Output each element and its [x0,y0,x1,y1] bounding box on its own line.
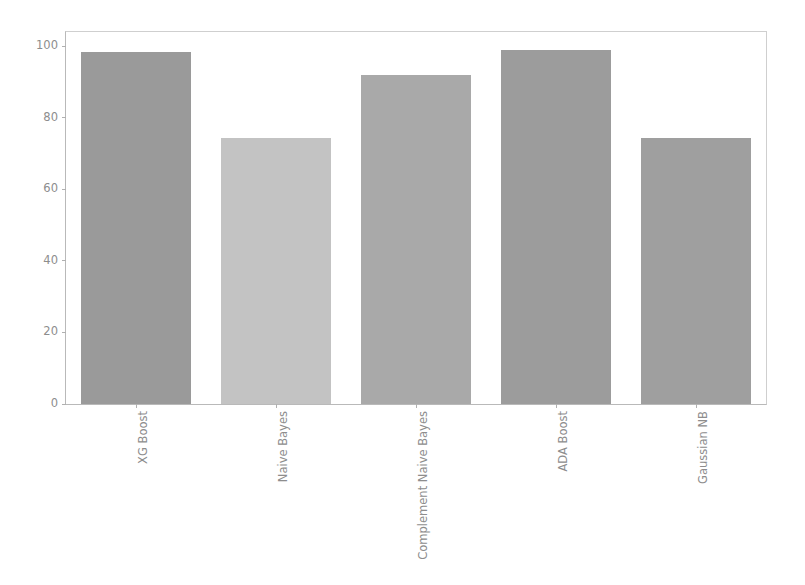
bar [361,75,470,404]
x-tick-mark [276,404,277,408]
bar-chart-figure: 020406080100 XG BoostNaive BayesCompleme… [0,0,805,585]
y-tick-label: 80 [43,110,58,125]
bar [81,52,190,404]
x-tick-label: XG Boost [136,411,150,464]
y-tick-label: 0 [51,396,58,411]
bar [221,138,330,404]
bar [501,50,610,404]
bar [641,138,750,404]
x-tick-mark [136,404,137,408]
bar-series [66,32,766,404]
x-tick-mark [696,404,697,408]
x-tick-label: Naive Bayes [276,411,290,482]
y-tick-label: 60 [43,181,58,196]
x-tick-label: Complement Naive Bayes [416,411,430,560]
x-tick-label: Gaussian NB [696,411,710,484]
y-tick-label: 100 [36,38,58,53]
y-tick-label: 40 [43,253,58,268]
y-tick-label: 20 [43,324,58,339]
x-tick-mark [416,404,417,408]
x-tick-label: ADA Boost [556,411,570,472]
x-tick-mark [556,404,557,408]
plot-area: 020406080100 XG BoostNaive BayesCompleme… [65,31,767,405]
